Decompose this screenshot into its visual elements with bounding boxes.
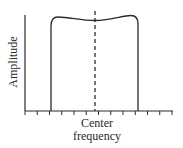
x-axis-label-line1: Center <box>81 116 113 130</box>
bandpass-diagram: Amplitude Center frequency <box>0 0 183 148</box>
x-axis-label-line2: frequency <box>73 129 121 143</box>
y-axis-label: Amplitude <box>6 36 20 87</box>
